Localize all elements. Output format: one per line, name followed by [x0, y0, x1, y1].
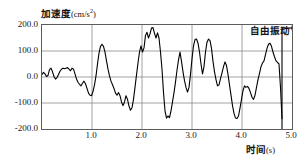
free-vibration-annotation-label: 自由振动 [250, 26, 290, 36]
plot-svg [42, 25, 292, 129]
y-tick-label-100: 100.0 [18, 45, 38, 55]
x-tick-label-5: 5.0 [276, 130, 306, 140]
x-axis-title: 时间(s) [246, 142, 275, 156]
x-tick-label-4: 4.0 [226, 130, 256, 140]
y-axis-title: 加速度(cm/s2) [41, 6, 96, 20]
plot-area [41, 24, 293, 130]
acceleration-time-history-chart: 加速度(cm/s2) 200.0 100.0 0.0 -100.0 -200.0… [0, 0, 307, 159]
gridlines [42, 25, 292, 129]
y-axis-title-unit: (cm/s [71, 9, 90, 19]
x-tick-label-2: 2.0 [126, 130, 156, 140]
x-axis-title-unit: (s) [266, 145, 275, 155]
x-axis-title-cjk: 时间 [246, 144, 266, 155]
y-tick-label-0: 0.0 [27, 71, 38, 81]
y-tick-label-200: 200.0 [18, 19, 38, 29]
y-axis-title-unit-close: ) [93, 9, 96, 19]
y-tick-label-neg200: -200.0 [15, 123, 38, 133]
acceleration-trace [42, 28, 282, 119]
x-tick-label-1: 1.0 [76, 130, 106, 140]
y-tick-label-neg100: -100.0 [15, 97, 38, 107]
y-axis-title-cjk: 加速度 [41, 8, 71, 19]
free-vibration-arrow-head [291, 25, 292, 30]
x-tick-label-3: 3.0 [176, 130, 206, 140]
